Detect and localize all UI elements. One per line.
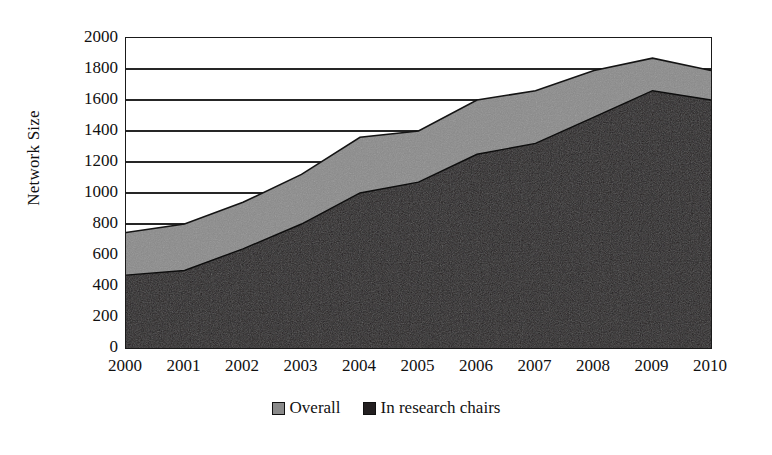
y-tick-label: 600 <box>48 245 118 262</box>
y-tick-label: 1400 <box>48 121 118 138</box>
chart-figure: Network Size 020040060080010001200140016… <box>0 0 772 455</box>
y-tick-label: 1800 <box>48 59 118 76</box>
y-axis-tick-labels: 0200400600800100012001400160018002000 <box>48 0 118 455</box>
x-tick-label: 2010 <box>675 355 745 377</box>
legend-swatch-icon <box>272 402 285 415</box>
legend-item[interactable]: Overall <box>272 398 341 418</box>
area-series-group <box>126 38 711 348</box>
y-tick-label: 0 <box>48 338 118 355</box>
y-axis-title: Network Size <box>24 78 44 238</box>
y-tick-label: 800 <box>48 214 118 231</box>
legend-item[interactable]: In research chairs <box>363 398 501 418</box>
y-tick-label: 2000 <box>48 28 118 45</box>
y-tick-label: 400 <box>48 276 118 293</box>
x-axis-tick-labels: 2000200120022003200420052006200720082009… <box>0 355 772 381</box>
plot-area <box>125 37 712 349</box>
y-tick-label: 1200 <box>48 152 118 169</box>
legend-label: In research chairs <box>381 398 501 418</box>
y-tick-label: 1000 <box>48 183 118 200</box>
legend-swatch-icon <box>363 402 376 415</box>
chart-legend: OverallIn research chairs <box>0 398 772 418</box>
legend-label: Overall <box>290 398 341 418</box>
y-tick-label: 1600 <box>48 90 118 107</box>
y-tick-label: 200 <box>48 307 118 324</box>
